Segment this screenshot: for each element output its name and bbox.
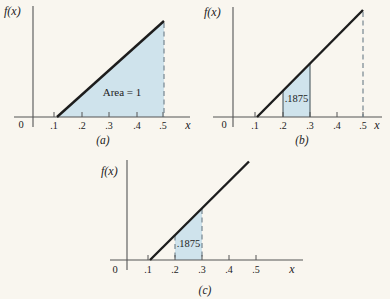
area-label: Area = 1 (103, 86, 142, 98)
x-tick-label: .4 (225, 264, 233, 275)
x-tick-label: .4 (133, 120, 141, 131)
x-axis-label: x (288, 262, 295, 276)
y-axis-label: f(x) (101, 164, 118, 178)
x-axis-label: x (184, 118, 191, 132)
probability-label: .1875 (285, 93, 309, 104)
panel-caption: (a) (96, 134, 110, 147)
panel-caption: (b) (295, 134, 309, 147)
panel-c: f(x) 0 .1 .2 .3 .4 .5 x .1875 (c) (85, 150, 345, 299)
x-tick-label: .3 (198, 264, 206, 275)
y-axis-label: f(x) (4, 4, 21, 18)
x-tick-label: .2 (279, 120, 287, 131)
origin-label: 0 (112, 264, 117, 275)
shaded-area-probability (283, 64, 310, 118)
shaded-area-probability (175, 209, 202, 261)
x-tick-label: .3 (105, 120, 113, 131)
x-tick-label: .3 (306, 120, 314, 131)
plot-a: f(x) 0 .1 .2 .3 .4 .5 x Area = 1 (a) (0, 0, 195, 150)
x-tick-label: .5 (252, 264, 260, 275)
panel-a: f(x) 0 .1 .2 .3 .4 .5 x Area = 1 (a) (0, 0, 195, 154)
x-tick-label: .1 (144, 264, 152, 275)
origin-label: 0 (221, 119, 226, 130)
plot-c: f(x) 0 .1 .2 .3 .4 .5 x .1875 (c) (85, 150, 345, 299)
origin-label: 0 (18, 119, 23, 130)
x-tick-label: .5 (159, 120, 167, 131)
x-axis-label: x (373, 118, 380, 132)
x-tick-label: .2 (78, 120, 86, 131)
x-tick-label: .2 (171, 264, 179, 275)
panel-caption: (c) (199, 284, 212, 297)
x-tick-label: .5 (359, 120, 367, 131)
plot-b: f(x) 0 .1 .2 .3 .4 .5 x .1875 (b) (195, 0, 390, 150)
y-axis-label: f(x) (204, 5, 221, 19)
probability-label: .1875 (177, 238, 201, 249)
x-tick-label: .1 (251, 120, 259, 131)
x-tick-label: .1 (50, 120, 58, 131)
panel-b: f(x) 0 .1 .2 .3 .4 .5 x .1875 (b) (195, 0, 390, 154)
density-figure: f(x) 0 .1 .2 .3 .4 .5 x Area = 1 (a) (0, 0, 390, 299)
x-tick-label: .4 (333, 120, 341, 131)
